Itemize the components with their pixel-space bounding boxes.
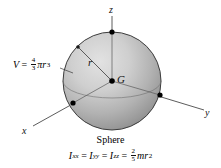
inertia-fraction: 2 5 bbox=[131, 148, 137, 163]
dot-x-surface bbox=[70, 100, 75, 105]
volume-fraction-numerator: 4 bbox=[31, 57, 37, 64]
volume-equals: = bbox=[22, 59, 28, 70]
figure-caption: Sphere bbox=[0, 134, 221, 145]
inertia-fraction-denominator: 5 bbox=[131, 155, 137, 163]
volume-symbol: V bbox=[13, 59, 19, 70]
inertia-equals-2: = bbox=[102, 150, 108, 161]
inertia-equals-3: = bbox=[121, 150, 127, 161]
inertia-mass-symbol: m bbox=[137, 150, 144, 161]
dot-center-g bbox=[109, 78, 115, 84]
volume-fraction-denominator: 3 bbox=[31, 64, 37, 72]
inertia-equals-1: = bbox=[81, 150, 87, 161]
inertia-subscript-yy: yy bbox=[93, 152, 99, 160]
volume-exponent: 3 bbox=[47, 61, 51, 69]
inertia-variable: r bbox=[144, 150, 148, 161]
inertia-subscript-zz: zz bbox=[113, 152, 118, 160]
axis-label-z: z bbox=[109, 5, 113, 15]
axis-label-y: y bbox=[205, 108, 209, 118]
inertia-formula: I xx = I yy = I zz = 2 5 m r 2 bbox=[0, 148, 221, 163]
volume-variable: r bbox=[42, 59, 46, 70]
dot-radius-surface bbox=[76, 45, 80, 49]
dot-z-surface bbox=[109, 29, 114, 34]
sphere-inertia-figure: z y x r G V = 4 3 π r 3 Sphere I xx = I … bbox=[0, 0, 221, 168]
inertia-exponent: 2 bbox=[149, 152, 153, 160]
inertia-fraction-numerator: 2 bbox=[131, 148, 137, 155]
center-of-mass-label: G bbox=[117, 74, 125, 85]
volume-formula: V = 4 3 π r 3 bbox=[13, 57, 50, 72]
radius-label: r bbox=[88, 57, 92, 68]
dot-y-surface bbox=[157, 92, 162, 97]
inertia-subscript-xx: xx bbox=[72, 152, 78, 160]
volume-fraction: 4 3 bbox=[31, 57, 37, 72]
